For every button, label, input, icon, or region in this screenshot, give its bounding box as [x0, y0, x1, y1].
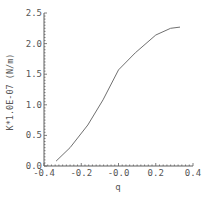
y-tick-labels: 0.00.51.01.52.02.5 — [26, 8, 42, 171]
y-tick-label: 1.5 — [26, 69, 42, 79]
x-tick-label: 0.4 — [185, 168, 201, 178]
y-tick-label: 2.0 — [26, 39, 42, 49]
y-tick-label: 2.5 — [26, 8, 42, 18]
y-tick-label: 1.0 — [26, 100, 42, 110]
line-chart: -0.4-0.2-0.00.20.4 0.00.51.01.52.02.5 q … — [0, 0, 210, 201]
x-tick-label: -0.0 — [108, 168, 130, 178]
y-axis-label: K*1.0E-07 (N/m) — [5, 54, 15, 131]
y-tick-label: 0.0 — [26, 161, 42, 171]
y-tick-label: 0.5 — [26, 130, 42, 140]
x-axis-label: q — [115, 182, 120, 192]
tick-marks — [44, 13, 193, 166]
x-tick-label: 0.2 — [148, 168, 164, 178]
plot-area: -0.4-0.2-0.00.20.4 0.00.51.01.52.02.5 q … — [0, 0, 210, 201]
axes — [44, 13, 193, 166]
data-series-line — [56, 27, 180, 161]
x-tick-label: -0.2 — [70, 168, 92, 178]
x-tick-labels: -0.4-0.2-0.00.20.4 — [33, 168, 201, 178]
